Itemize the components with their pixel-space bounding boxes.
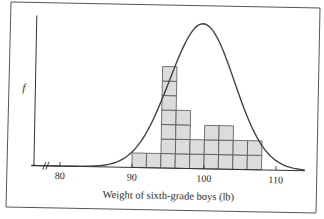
histogram-block	[204, 154, 219, 169]
histogram-block	[219, 140, 234, 155]
histogram-block	[175, 154, 190, 169]
histogram-chart: 8090100110 f Weight of sixth-grade boys …	[0, 0, 324, 219]
x-tick-label: 90	[127, 171, 137, 182]
histogram-block	[132, 153, 147, 168]
x-tick-label: 110	[268, 174, 283, 185]
histogram-block	[233, 155, 248, 170]
x-tick-label: 80	[55, 170, 65, 181]
histogram-block	[176, 125, 191, 140]
histogram-block	[146, 153, 161, 168]
histogram-block	[233, 140, 248, 155]
histogram-block	[247, 155, 262, 170]
histogram-block	[219, 126, 234, 141]
x-tick-label: 100	[196, 173, 211, 184]
histogram-block	[176, 110, 191, 125]
histogram-block	[162, 110, 177, 125]
histogram-block	[218, 155, 233, 170]
histogram-block	[204, 125, 219, 140]
histogram-block	[175, 139, 190, 154]
histogram-block	[161, 153, 176, 168]
histogram-block	[162, 95, 177, 110]
histogram-block	[190, 140, 205, 155]
histogram-block	[189, 154, 204, 169]
histogram-block	[161, 124, 176, 139]
histogram-block	[204, 140, 219, 155]
histogram-block	[161, 139, 176, 154]
